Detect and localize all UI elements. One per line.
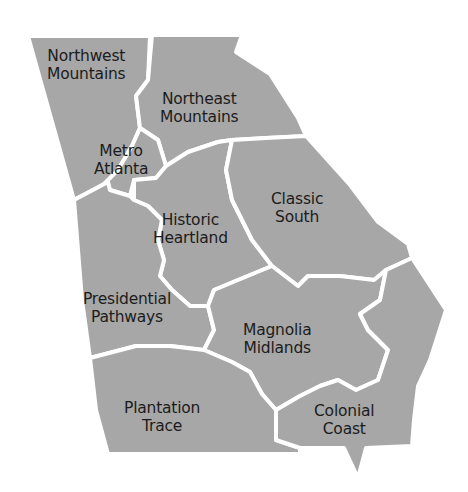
label-metro-atlanta: Metro Atlanta <box>94 142 148 178</box>
label-northeast-mountains: Northeast Mountains <box>160 90 239 126</box>
label-northwest-mountains: Northwest Mountains <box>47 47 126 83</box>
label-presidential-pathways: Presidential Pathways <box>83 290 171 326</box>
label-magnolia-midlands: Magnolia Midlands <box>243 321 312 357</box>
label-colonial-coast: Colonial Coast <box>314 402 374 438</box>
label-historic-heartland: Historic Heartland <box>153 211 228 247</box>
label-classic-south: Classic South <box>271 190 323 226</box>
label-plantation-trace: Plantation Trace <box>124 399 200 435</box>
